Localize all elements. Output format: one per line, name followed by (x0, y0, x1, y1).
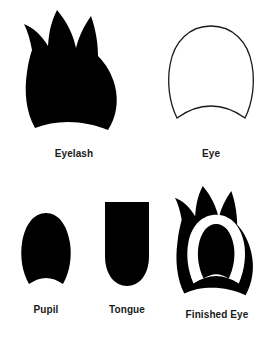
finished-eye-pupil-path (198, 224, 235, 279)
part-label-tongue: Tongue (109, 305, 145, 315)
parts-sheet: Eyelash Eye Pupil Tongue (0, 0, 273, 338)
part-label-finished-eye: Finished Eye (186, 310, 249, 320)
eye-path (169, 26, 254, 118)
part-tongue: Tongue (88, 186, 166, 315)
tongue-path (105, 202, 149, 286)
pupil-shape (6, 186, 86, 296)
part-eye: Eye (156, 6, 266, 159)
part-eyelash: Eyelash (16, 6, 132, 159)
part-finished-eye: Finished Eye (168, 176, 266, 320)
part-label-eyelash: Eyelash (55, 149, 94, 159)
part-label-eye: Eye (202, 149, 220, 159)
finished-eye-pupil-layer (198, 224, 235, 279)
tongue-shape (88, 186, 166, 296)
eyelash-path (24, 10, 117, 130)
part-label-pupil: Pupil (34, 305, 59, 315)
eyelash-shape (16, 6, 132, 140)
finished-eye-shape (168, 176, 266, 302)
part-pupil: Pupil (6, 186, 86, 315)
eye-shape (156, 6, 266, 140)
pupil-path (21, 213, 70, 284)
